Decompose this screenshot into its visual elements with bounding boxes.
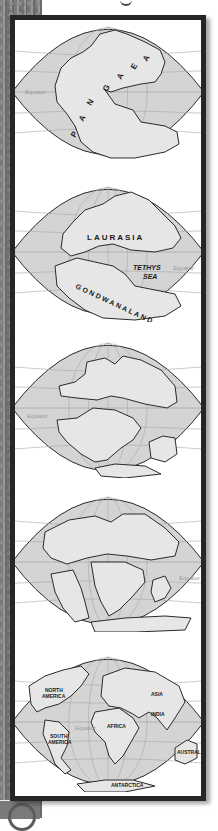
landmass-south-2 bbox=[149, 436, 177, 462]
tethys-sea-label-line2: SEA bbox=[143, 273, 157, 280]
equator-label: Equator bbox=[27, 413, 48, 419]
map-panel-laurasia-gondwana: Equator LAURASIA TETHYS SEA GONDWANALAND bbox=[15, 182, 201, 322]
map-panel-pangaea: Equator P A N G A E A bbox=[15, 22, 201, 162]
india-label: INDIA bbox=[151, 711, 165, 717]
map-pangaea: Equator P A N G A E A bbox=[15, 22, 201, 162]
decorative-badge bbox=[0, 800, 40, 819]
laurasia-label: LAURASIA bbox=[87, 233, 144, 242]
antarctica-label: ANTARCTICA bbox=[111, 782, 144, 788]
map-breakup-2: Equator bbox=[15, 492, 201, 632]
map-panel-breakup-2: Equator bbox=[15, 492, 201, 632]
map-panel-present-day: Equator NORTH AMERICA SOUTH AMERICA AFRI… bbox=[15, 652, 201, 792]
equator-label: Equator bbox=[179, 575, 200, 581]
asia-label: ASIA bbox=[151, 691, 163, 697]
equator-label: Equator bbox=[75, 725, 96, 731]
equator-label: Equator bbox=[173, 265, 194, 271]
south-america-label-line2: AMERICA bbox=[48, 739, 72, 745]
landmass-antarctic-1 bbox=[95, 464, 161, 478]
equator-label: Equator bbox=[25, 89, 46, 95]
map-present-day: Equator NORTH AMERICA SOUTH AMERICA AFRI… bbox=[15, 652, 201, 792]
map-breakup-1: Equator bbox=[15, 338, 201, 478]
africa-label: AFRICA bbox=[107, 723, 126, 729]
map-laurasia-gondwana: Equator LAURASIA TETHYS SEA GONDWANALAND bbox=[15, 182, 201, 322]
title-glyph-fragment bbox=[120, 0, 132, 6]
north-america-label-line2: AMERICA bbox=[42, 693, 66, 699]
tethys-sea-label-line1: TETHYS bbox=[133, 264, 161, 271]
map-panel-breakup-1: Equator bbox=[15, 338, 201, 478]
map-sequence-frame: Equator P A N G A E A Equator LAURASIA T… bbox=[10, 15, 206, 801]
australia-label: AUSTRALIA bbox=[177, 749, 201, 755]
